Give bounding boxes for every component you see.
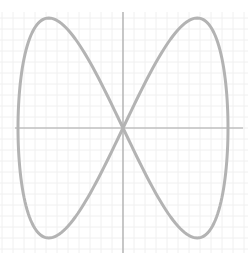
axes <box>15 12 243 253</box>
chart-plot <box>0 0 248 253</box>
